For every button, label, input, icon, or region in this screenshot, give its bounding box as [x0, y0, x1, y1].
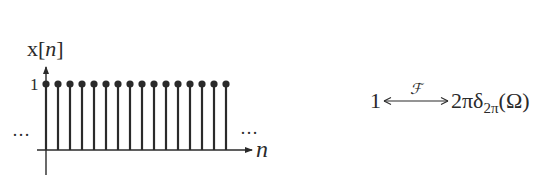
- stem-14: [210, 80, 217, 150]
- stems: [42, 80, 229, 150]
- left-ellipsis: …: [12, 120, 30, 140]
- stem-0: [42, 80, 49, 150]
- stem-8: [138, 80, 145, 150]
- stem-9: [150, 80, 157, 150]
- fourier-transform-pair: 1 ℱ 2πδ2π(Ω): [370, 81, 530, 116]
- transform-rhs: 2πδ2π(Ω): [451, 88, 530, 116]
- stem-10: [162, 80, 169, 150]
- stem-11: [174, 80, 181, 150]
- stem-7: [126, 80, 133, 150]
- stem-12: [186, 80, 193, 150]
- stem-4: [90, 80, 97, 150]
- dt-constant-signal-diagram: x[n] 1 … … n 1 ℱ 2πδ2π(Ω): [0, 0, 550, 186]
- plot-title: x[n]: [27, 36, 64, 61]
- fourier-operator-icon: ℱ: [410, 81, 425, 97]
- stem-2: [66, 80, 73, 150]
- stem-1: [54, 80, 61, 150]
- right-ellipsis: …: [240, 118, 258, 138]
- transform-lhs: 1: [370, 88, 381, 113]
- x-axis-label: n: [256, 136, 268, 162]
- y-tick-label-1: 1: [30, 75, 39, 94]
- stem-3: [78, 80, 85, 150]
- stem-5: [102, 80, 109, 150]
- stem-15: [222, 80, 229, 150]
- stem-13: [198, 80, 205, 150]
- stem-6: [114, 80, 121, 150]
